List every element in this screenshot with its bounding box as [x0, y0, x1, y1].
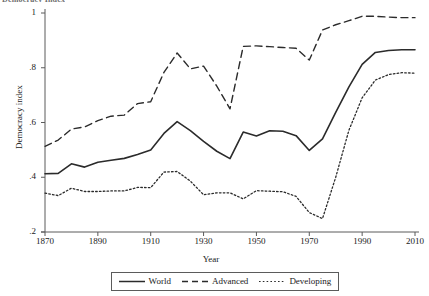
series-line-developing [45, 73, 415, 219]
x-tick-label: 1970 [289, 237, 329, 246]
legend-label-world: World [149, 277, 171, 286]
x-tick-label: 1870 [25, 237, 65, 246]
legend-label-advanced: Advanced [212, 277, 248, 286]
series-lines [45, 16, 415, 218]
x-tick-label: 1950 [236, 237, 276, 246]
legend-swatch-developing-icon [259, 278, 285, 285]
legend-swatch-advanced-icon [182, 278, 208, 285]
series-line-advanced [45, 16, 415, 146]
y-tick-label: .6 [10, 118, 36, 127]
y-tick-label: .4 [10, 172, 36, 181]
x-tick-label: 1890 [78, 237, 118, 246]
x-tick-label: 1930 [184, 237, 224, 246]
legend-swatch-world-icon [119, 278, 145, 285]
y-tick-label: .8 [10, 63, 36, 72]
x-tick-label: 2010 [395, 237, 429, 246]
x-tick-label: 1910 [131, 237, 171, 246]
legend-label-developing: Developing [289, 277, 331, 286]
legend-entry-developing: Developing [259, 277, 331, 286]
y-tick-labels: 1.8.6.4.2 [0, 0, 36, 296]
series-line-world [45, 50, 415, 174]
chart-legend: World Advanced Developing [111, 272, 339, 291]
x-axis-title: Year [0, 254, 422, 264]
tick-marks [41, 13, 415, 236]
y-tick-label: 1 [10, 8, 36, 17]
x-tick-label: 1990 [342, 237, 382, 246]
legend-entry-world: World [119, 277, 171, 286]
legend-entry-advanced: Advanced [182, 277, 248, 286]
y-tick-label: .2 [10, 227, 36, 236]
